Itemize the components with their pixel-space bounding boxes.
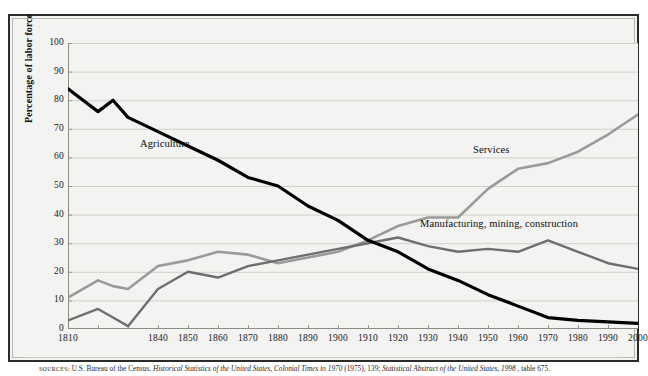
x-tick-label: 1940 <box>448 333 468 343</box>
x-tick-label: 1810 <box>58 333 78 343</box>
source-divider <box>25 357 622 358</box>
y-tick-label: 20 <box>38 267 64 277</box>
y-tick-label: 30 <box>38 238 64 248</box>
plot-area: Agriculture Services Manufacturing, mini… <box>68 43 638 329</box>
y-tick-label: 50 <box>38 181 64 191</box>
x-tick-label: 1950 <box>478 333 498 343</box>
source-note-text-3: , table 675. <box>517 365 550 373</box>
x-tick-label: 1850 <box>178 333 198 343</box>
y-axis-title: Percentage of labor force <box>23 0 34 123</box>
x-tick-label: 1840 <box>148 333 168 343</box>
y-tick-label: 10 <box>38 295 64 305</box>
figure-frame: Percentage of labor force 01020304050607… <box>8 14 639 362</box>
chart-svg <box>68 43 638 329</box>
series-label-agriculture: Agriculture <box>140 138 190 149</box>
x-tick-label: 1920 <box>388 333 408 343</box>
x-tick-label: 1890 <box>298 333 318 343</box>
x-tick-label: 1880 <box>268 333 288 343</box>
figure-frame-inner: Percentage of labor force 01020304050607… <box>12 18 635 358</box>
x-tick-label: 1970 <box>538 333 558 343</box>
source-note-text-1: U.S. Bureau of the Census, <box>72 365 153 373</box>
x-tick-label: 1980 <box>568 333 588 343</box>
x-tick-label: 1870 <box>238 333 258 343</box>
source-note: SOURCES: U.S. Bureau of the Census, Hist… <box>39 365 620 374</box>
source-note-italic-1: Historical Statistics of the United Stat… <box>153 365 342 373</box>
y-tick-label: 100 <box>38 38 64 48</box>
source-note-text-2: (1975), 139; <box>344 365 382 373</box>
x-tick-label: 1930 <box>418 333 438 343</box>
y-tick-label: 40 <box>38 210 64 220</box>
series-label-services: Services <box>473 144 509 155</box>
y-axis-ticks: 0102030405060708090100 <box>36 43 64 329</box>
y-tick-label: 60 <box>38 152 64 162</box>
x-tick-label: 1860 <box>208 333 228 343</box>
series-label-manufacturing: Manufacturing, mining, construction <box>420 218 578 229</box>
source-note-label: SOURCES: <box>39 366 70 372</box>
x-axis-ticks: 1810184018501860187018801890190019101920… <box>68 333 640 349</box>
source-note-italic-2: Statistical Abstract of the United State… <box>382 365 515 373</box>
x-tick-label: 1960 <box>508 333 528 343</box>
x-tick-label: 1900 <box>328 333 348 343</box>
x-tick-label: 1990 <box>598 333 618 343</box>
x-tick-label: 2000 <box>628 333 648 343</box>
x-tick-label: 1910 <box>358 333 378 343</box>
y-tick-label: 90 <box>38 67 64 77</box>
y-tick-label: 80 <box>38 95 64 105</box>
y-tick-label: 70 <box>38 124 64 134</box>
